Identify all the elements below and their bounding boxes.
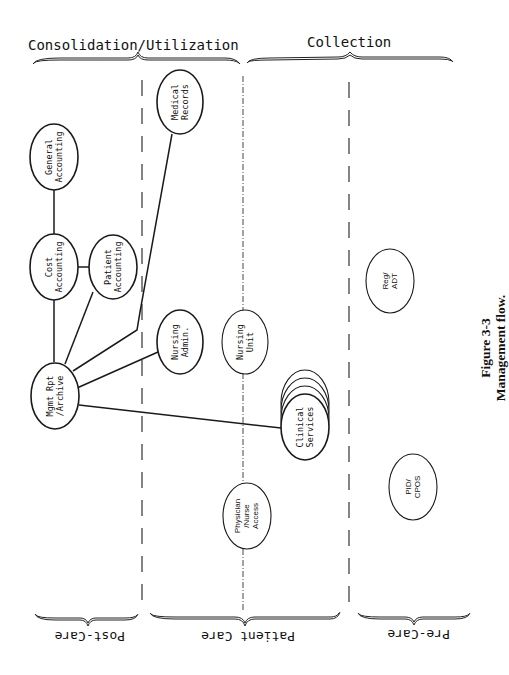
edge-nursing-admin-mgmt <box>77 352 158 388</box>
footer-post-care: Post-Care <box>54 629 125 644</box>
node-medical-records-line1: Medical <box>170 84 180 120</box>
node-physician-nurse-access-line1: Physician <box>233 499 242 533</box>
node-pid-cpos[interactable]: PID/ CPOS <box>389 454 437 520</box>
footer-pre-care: Pre-Care <box>387 627 450 642</box>
node-mgmt-rpt-archive-line1: Mgmt Rpt <box>45 376 55 417</box>
node-general-accounting[interactable]: General Accounting <box>30 124 78 190</box>
node-general-accounting-line1: General <box>44 139 54 175</box>
brace-collection-inner <box>248 55 452 62</box>
node-mgmt-rpt-archive[interactable]: Mgmt Rpt /Archive <box>31 363 79 429</box>
node-medical-records-line2: Records <box>180 84 190 120</box>
node-clinical-services[interactable]: Clinical Services <box>281 370 329 460</box>
node-patient-accounting-line2: Accounting <box>113 241 123 292</box>
node-reg-adt[interactable]: Reg/ ADT <box>366 249 414 313</box>
footer-patient-care: Patient Care <box>201 629 295 644</box>
node-cost-accounting-line2: Accounting <box>54 241 64 292</box>
brace-collection <box>247 52 453 63</box>
node-nursing-admin-line2: Admin. <box>180 327 190 358</box>
node-reg-adt-line2: ADT <box>390 273 399 289</box>
node-nursing-unit[interactable]: Nursing Unit <box>222 310 268 374</box>
node-cost-accounting[interactable]: Cost Accounting <box>30 234 78 300</box>
brace-consolidation-inner <box>34 55 239 63</box>
edge-patient-accounting-mgmt <box>65 292 93 364</box>
brace-pre-care-inner <box>359 614 469 622</box>
node-reg-adt-line1: Reg/ <box>381 272 390 290</box>
node-physician-nurse-access[interactable]: Physician /Nurse Access <box>223 483 271 549</box>
management-flow-diagram: Consolidation/Utilization Collection Gen… <box>0 0 509 675</box>
node-physician-nurse-access-line2: /Nurse <box>242 504 251 528</box>
node-cost-accounting-line1: Cost <box>44 257 54 277</box>
node-general-accounting-line2: Accounting <box>54 131 64 182</box>
edge-clinical-services-mgmt <box>79 405 281 428</box>
caption-title: Management flow. <box>493 295 508 401</box>
node-nursing-unit-line1: Nursing <box>235 324 245 360</box>
node-nursing-admin[interactable]: Nursing Admin. <box>157 310 203 374</box>
node-clinical-services-line1: Clinical <box>295 407 305 448</box>
node-clinical-services-line2: Services <box>305 407 315 448</box>
node-physician-nurse-access-line3: Access <box>251 503 260 529</box>
node-patient-accounting[interactable]: Patient Accounting <box>89 235 137 299</box>
brace-patient-care-inner <box>151 613 339 623</box>
header-collection: Collection <box>307 34 391 50</box>
node-pid-cpos-line1: PID/ <box>404 478 413 494</box>
figure-caption: Figure 3-3 Management flow. <box>478 295 508 401</box>
node-nursing-unit-line2: Unit <box>245 332 255 352</box>
node-medical-records[interactable]: Medical Records <box>157 70 203 134</box>
node-nursing-admin-line1: Nursing <box>170 324 180 360</box>
brace-post-care-inner <box>36 615 137 623</box>
caption-figure-number: Figure 3-3 <box>478 318 493 378</box>
node-mgmt-rpt-archive-line2: /Archive <box>55 376 65 417</box>
node-patient-accounting-line1: Patient <box>103 249 113 285</box>
node-pid-cpos-line2: CPOS <box>413 476 422 499</box>
header-consolidation-utilization: Consolidation/Utilization <box>28 37 239 53</box>
